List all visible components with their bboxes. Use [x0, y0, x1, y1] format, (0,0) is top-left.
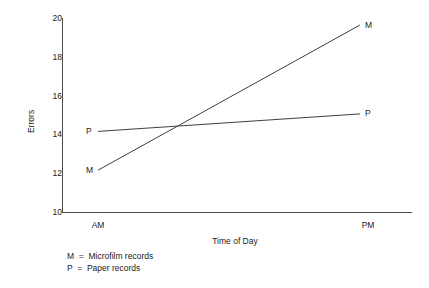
y-tick-label-14: 14 — [40, 130, 62, 139]
legend-item-microfilm: M = Microfilm records — [67, 250, 153, 262]
x-category-label-am: AM — [78, 221, 118, 230]
y-tick-label-10: 10 — [40, 208, 62, 217]
x-axis-title: Time of Day — [165, 236, 305, 246]
series-tag-paper-am: P — [86, 127, 92, 136]
x-category-label-pm: PM — [348, 221, 388, 230]
series-line-paper — [98, 114, 360, 131]
line-chart-figure: Errors 20 18 16 14 12 10 AM PM Time of D… — [0, 0, 429, 288]
chart-legend: M = Microfilm records P = Paper records — [67, 250, 153, 274]
series-line-microfilm — [98, 25, 360, 170]
series-tag-microfilm-am: M — [86, 166, 93, 175]
y-axis-title: Errors — [26, 110, 36, 133]
series-tag-microfilm-pm: M — [365, 21, 372, 30]
y-tick-label-16: 16 — [40, 92, 62, 101]
y-tick-label-20: 20 — [40, 14, 62, 23]
legend-item-paper: P = Paper records — [67, 262, 153, 274]
y-tick-label-18: 18 — [40, 53, 62, 62]
series-tag-paper-pm: P — [365, 109, 371, 118]
y-tick-label-12: 12 — [40, 169, 62, 178]
